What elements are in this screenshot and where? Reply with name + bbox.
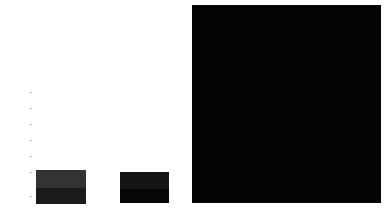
bar-1-upper: [36, 170, 86, 188]
bar-chart: [0, 0, 391, 208]
plot-area: [0, 0, 391, 208]
bar-2-lower: [120, 189, 169, 203]
bar-1-lower: [36, 188, 86, 204]
bar-2[interactable]: [120, 172, 169, 203]
bar-1[interactable]: [36, 170, 86, 204]
bar-3[interactable]: [192, 5, 381, 203]
bar-2-upper: [120, 172, 169, 189]
bar-3-body: [192, 5, 381, 203]
